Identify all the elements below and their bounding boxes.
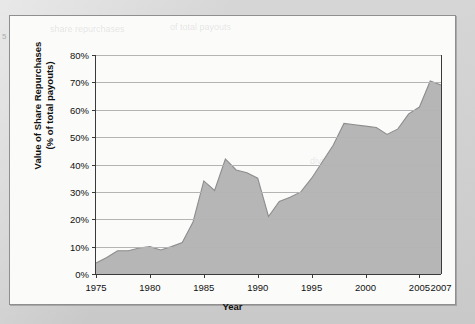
tick-y bbox=[92, 110, 96, 111]
plot-right-edge bbox=[441, 55, 442, 274]
tick-label-x: 2005 bbox=[409, 282, 430, 293]
gridline-y bbox=[96, 192, 441, 193]
gridline-y bbox=[96, 82, 441, 83]
tick-y bbox=[92, 165, 96, 166]
plot-area: 0%10%20%30%40%50%60%70%80%19751980198519… bbox=[95, 55, 441, 275]
tick-y bbox=[92, 219, 96, 220]
tick-label-y: 0% bbox=[75, 269, 89, 280]
tick-label-y: 30% bbox=[70, 186, 89, 197]
tick-label-y: 80% bbox=[70, 50, 89, 61]
tick-label-y: 60% bbox=[70, 104, 89, 115]
tick-label-x: 1990 bbox=[247, 282, 268, 293]
tick-label-x: 1980 bbox=[139, 282, 160, 293]
y-axis-title-line1: Value of Share Repurchases bbox=[32, 21, 44, 191]
gridline-y bbox=[96, 55, 441, 56]
y-axis-title-line2: (% of total payouts) bbox=[43, 21, 55, 191]
tick-label-x-end: 2007 bbox=[430, 282, 451, 293]
tick-y bbox=[92, 55, 96, 56]
margin-scan-artifact: 5 bbox=[2, 33, 5, 41]
tick-label-x: 1995 bbox=[301, 282, 322, 293]
tick-x bbox=[258, 274, 259, 278]
y-axis-title: Value of Share Repurchases (% of total p… bbox=[32, 21, 55, 191]
tick-label-x: 2000 bbox=[355, 282, 376, 293]
gridline-y bbox=[96, 247, 441, 248]
tick-label-y: 40% bbox=[70, 159, 89, 170]
tick-x bbox=[312, 274, 313, 278]
tick-x bbox=[366, 274, 367, 278]
figure-card: share repurchases of total payouts divid… bbox=[9, 15, 456, 305]
gridline-y bbox=[96, 110, 441, 111]
gridline-y bbox=[96, 219, 441, 220]
tick-label-y: 70% bbox=[70, 77, 89, 88]
tick-x bbox=[150, 274, 151, 278]
tick-y bbox=[92, 82, 96, 83]
tick-x bbox=[419, 274, 420, 278]
tick-x bbox=[204, 274, 205, 278]
gridline-y bbox=[96, 165, 441, 166]
tick-label-y: 50% bbox=[70, 132, 89, 143]
tick-x bbox=[96, 274, 97, 278]
tick-label-y: 20% bbox=[70, 214, 89, 225]
tick-label-x: 1975 bbox=[85, 282, 106, 293]
area-chart: Value of Share Repurchases (% of total p… bbox=[10, 16, 455, 304]
gridline-y bbox=[96, 137, 441, 138]
tick-y bbox=[92, 192, 96, 193]
tick-label-y: 10% bbox=[70, 241, 89, 252]
tick-label-x: 1985 bbox=[193, 282, 214, 293]
x-axis-title: Year bbox=[10, 301, 455, 312]
tick-y bbox=[92, 247, 96, 248]
tick-y bbox=[92, 137, 96, 138]
